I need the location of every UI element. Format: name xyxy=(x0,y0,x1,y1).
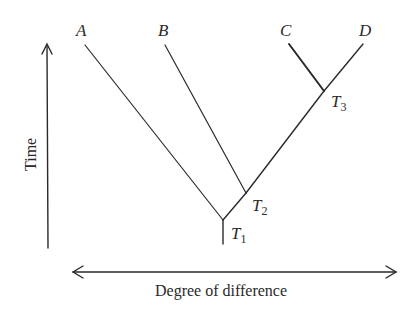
time-axis-label: Time xyxy=(23,138,39,171)
branch-C xyxy=(289,44,324,91)
leaf-label-d: D xyxy=(359,22,371,39)
node-label-t1: T1 xyxy=(231,225,246,245)
tree-diagram xyxy=(0,0,411,313)
time-axis-line xyxy=(47,46,48,248)
leaf-label-a: A xyxy=(76,22,86,39)
branch-A xyxy=(85,45,223,220)
leaf-label-b: B xyxy=(158,22,168,39)
node-label-t2: T2 xyxy=(252,197,267,217)
node-label-t3: T3 xyxy=(331,93,346,113)
leaf-label-c: C xyxy=(280,22,291,39)
branch-T3-T2 xyxy=(246,91,324,193)
branch-D xyxy=(324,44,363,91)
branch-B xyxy=(165,45,246,193)
branch-T2-T1 xyxy=(223,193,246,220)
difference-axis-label: Degree of difference xyxy=(155,283,287,299)
